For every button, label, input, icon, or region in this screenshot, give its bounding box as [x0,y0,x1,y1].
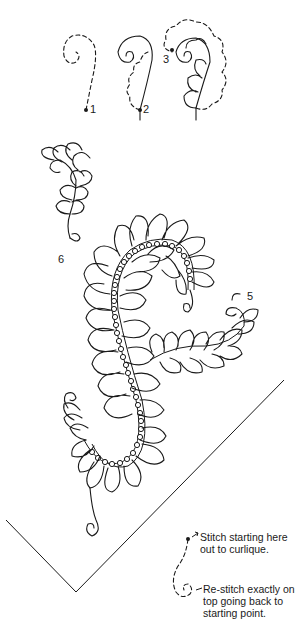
step-label-3: 3 [163,54,169,65]
note-stitch-start: Stitch starting here out to curlique. [200,531,296,555]
quilt-border-corner [6,380,284,592]
feather-label-5: 5 [247,291,253,302]
step-3-feather [164,20,226,120]
step-label-1: 1 [90,104,96,115]
feather-label-6: 6 [58,254,64,265]
large-s-feather [64,214,214,536]
feather-6 [42,143,92,241]
note-restitch: Re-stitch exactly on top going back to s… [203,583,296,619]
annotation-stitch-path [173,532,202,597]
step-1-curl [64,35,96,112]
bead-row [89,241,192,466]
step-label-2: 2 [143,104,149,115]
feather-5 [150,294,258,373]
